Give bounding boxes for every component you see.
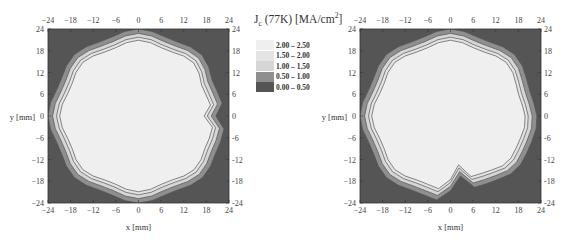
legend-swatch [256,72,274,82]
y-axis-label: y [mm] [322,112,347,122]
legend-label: 0.50 – 1.00 [276,72,310,81]
x-tick-label-top: 6 [159,16,163,25]
y-tick-label-left: 6 [40,90,44,99]
x-tick-label-top: 18 [202,16,210,25]
x-tick-label-top: 0 [449,16,453,25]
legend-swatch [256,82,274,92]
x-tick-label-top: −24 [42,16,55,25]
legend-swatch [256,61,274,71]
y-tick-label-right: 12 [232,69,240,78]
y-tick-label-left: −6 [35,134,44,143]
y-tick-label-right: -18 [544,177,555,186]
y-tick-label-right: -12 [232,156,243,165]
legend-label: 0.00 – 0.50 [276,83,310,92]
y-tick-label-right: 18 [232,47,240,56]
x-tick-label-bottom: 18 [202,206,210,215]
legend: 2.00 – 2.50 1.50 – 2.00 1.00 – 1.50 0.50… [256,40,310,93]
x-tick-label-bottom: −12 [87,206,100,215]
y-tick-label-right: 6 [232,90,236,99]
y-tick-label-left: 18 [36,47,44,56]
x-tick-label-top: −6 [424,16,433,25]
x-tick-label-top: −24 [354,16,367,25]
y-tick-label-left: −12 [343,156,356,165]
y-tick-label-right: 18 [544,47,552,56]
legend-label: 1.50 – 2.00 [276,51,310,60]
legend-title: Jc (77K) [MA/cm2] [254,11,342,28]
x-tick-label-bottom: −18 [376,206,389,215]
x-tick-label-top: −6 [112,16,121,25]
x-tick-label-top: 6 [471,16,475,25]
legend-entry: 0.50 – 1.00 [256,72,310,83]
y-tick-label-right: -6 [232,134,239,143]
y-tick-label-left: 0 [40,112,44,121]
y-tick-label-right: -18 [232,177,243,186]
x-tick-label-bottom: −6 [424,206,433,215]
x-tick-label-bottom: −12 [399,206,412,215]
y-tick-label-right: 24 [232,25,240,34]
x-tick-label-bottom: 12 [492,206,500,215]
x-tick-label-top: −18 [376,16,389,25]
y-tick-label-left: 12 [348,69,356,78]
x-tick-label-bottom: −6 [112,206,121,215]
y-tick-label-left: −24 [343,199,356,208]
y-tick-label-left: −6 [347,134,356,143]
x-tick-label-top: 24 [537,16,545,25]
x-tick-label-bottom: 6 [471,206,475,215]
y-tick-label-left: −12 [31,156,44,165]
contour-plot-2: −24−24−18−18−12−12−6−6006612121818242424… [322,16,555,232]
y-tick-label-left: 24 [36,25,44,34]
y-tick-label-right: 6 [544,90,548,99]
contour-level [60,40,213,192]
y-tick-label-right: 0 [544,112,548,121]
x-axis-label: x [mm] [126,222,151,232]
y-tick-label-left: −18 [343,177,356,186]
y-tick-label-right: -24 [544,199,555,208]
y-tick-label-left: 6 [352,90,356,99]
x-tick-label-bottom: 0 [449,206,453,215]
y-tick-label-right: 0 [232,112,236,121]
contour-plot-1: −24−24−18−18−12−12−6−6006612121818242424… [10,16,243,232]
legend-title-rest: (77K) [MA/cm [262,13,335,25]
x-axis-label: x [mm] [438,222,463,232]
legend-entry: 2.00 – 2.50 [256,40,310,51]
legend-swatch [256,40,274,50]
x-tick-label-bottom: 6 [159,206,163,215]
x-tick-label-top: 0 [137,16,141,25]
y-axis-label: y [mm] [10,112,35,122]
y-tick-label-right: 24 [544,25,552,34]
y-tick-label-left: 24 [348,25,356,34]
legend-swatch [256,51,274,61]
y-tick-label-left: 12 [36,69,44,78]
y-tick-label-left: −24 [31,199,44,208]
y-tick-label-left: −18 [31,177,44,186]
chart-canvas: −24−24−18−18−12−12−6−6006612121818242424… [0,0,568,244]
y-tick-label-left: 18 [348,47,356,56]
y-tick-label-right: -12 [544,156,555,165]
x-tick-label-top: 12 [180,16,188,25]
y-tick-label-right: 12 [544,69,552,78]
x-tick-label-bottom: 12 [180,206,188,215]
legend-label: 2.00 – 2.50 [276,41,310,50]
y-tick-label-left: 0 [352,112,356,121]
x-tick-label-bottom: 0 [137,206,141,215]
x-tick-label-top: −12 [87,16,100,25]
legend-title-end: ] [338,13,342,25]
legend-label: 1.00 – 1.50 [276,62,310,71]
legend-entry: 1.50 – 2.00 [256,51,310,62]
x-tick-label-top: 24 [225,16,233,25]
x-tick-label-top: −12 [399,16,412,25]
legend-entry: 1.00 – 1.50 [256,61,310,72]
x-tick-label-bottom: −18 [64,206,77,215]
y-tick-label-right: -6 [544,134,551,143]
legend-entry: 0.00 – 0.50 [256,82,310,93]
x-tick-label-bottom: 18 [514,206,522,215]
x-tick-label-top: 12 [492,16,500,25]
y-tick-label-right: -24 [232,199,243,208]
x-tick-label-top: −18 [64,16,77,25]
x-tick-label-top: 18 [514,16,522,25]
